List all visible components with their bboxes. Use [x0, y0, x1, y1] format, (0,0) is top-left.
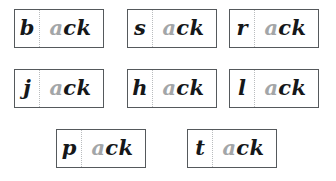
- onset-cell: s: [128, 10, 153, 47]
- rime-tail-letters: ck: [176, 17, 204, 38]
- rime-vowel-letter: a: [50, 77, 64, 98]
- rime-vowel-letter: a: [223, 137, 237, 158]
- onset-letter: p: [62, 137, 77, 158]
- rime-vowel-letter: a: [265, 17, 279, 38]
- rime-tail-letters: ck: [176, 77, 204, 98]
- onset-letter: s: [134, 17, 146, 38]
- word-card-back[interactable]: b ack: [14, 9, 104, 48]
- rime-cell: ack: [40, 10, 103, 47]
- rime-cell: ack: [255, 70, 318, 107]
- rime-vowel-letter: a: [50, 17, 64, 38]
- rime-cell: ack: [40, 70, 103, 107]
- word-card-lack[interactable]: l ack: [229, 69, 319, 108]
- rime-tail-letters: ck: [63, 17, 91, 38]
- rime-tail-letters: ck: [105, 137, 133, 158]
- onset-cell: r: [230, 10, 255, 47]
- onset-cell: h: [128, 70, 153, 107]
- word-card-hack[interactable]: h ack: [127, 69, 217, 108]
- onset-letter: t: [195, 137, 205, 158]
- word-card-jack[interactable]: j ack: [14, 69, 104, 108]
- onset-letter: b: [20, 17, 35, 38]
- onset-letter: h: [132, 77, 147, 98]
- rime-vowel-letter: a: [265, 77, 279, 98]
- word-card-grid: b ack s ack r ack j ack h: [0, 0, 336, 181]
- rime-tail-letters: ck: [278, 77, 306, 98]
- onset-cell: l: [230, 70, 255, 107]
- onset-cell: t: [188, 130, 213, 167]
- rime-cell: ack: [153, 70, 216, 107]
- word-card-pack[interactable]: p ack: [56, 129, 146, 168]
- rime-vowel-letter: a: [163, 17, 177, 38]
- onset-cell: p: [57, 130, 82, 167]
- onset-letter: j: [23, 77, 31, 98]
- rime-cell: ack: [213, 130, 276, 167]
- rime-tail-letters: ck: [63, 77, 91, 98]
- rime-vowel-letter: a: [92, 137, 106, 158]
- rime-tail-letters: ck: [236, 137, 264, 158]
- word-card-tack[interactable]: t ack: [187, 129, 277, 168]
- rime-cell: ack: [153, 10, 216, 47]
- onset-cell: j: [15, 70, 40, 107]
- rime-cell: ack: [82, 130, 145, 167]
- rime-cell: ack: [255, 10, 318, 47]
- rime-vowel-letter: a: [163, 77, 177, 98]
- onset-letter: r: [236, 17, 247, 38]
- onset-letter: l: [238, 77, 246, 98]
- word-card-rack[interactable]: r ack: [229, 9, 319, 48]
- onset-cell: b: [15, 10, 40, 47]
- word-card-sack[interactable]: s ack: [127, 9, 217, 48]
- rime-tail-letters: ck: [278, 17, 306, 38]
